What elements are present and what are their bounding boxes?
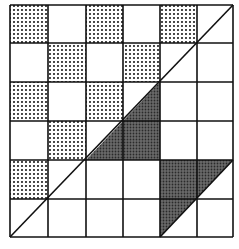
dotted-cell [123,43,160,82]
dotted-cell [48,43,86,82]
dotted-cell [10,5,48,43]
dotted-cell [86,82,123,121]
dotted-cell [10,82,48,121]
dotted-cell [86,5,123,43]
dotted-cell [10,160,48,199]
grid-diagram [0,0,239,249]
dotted-cell [160,5,197,43]
dotted-cell [48,121,86,160]
